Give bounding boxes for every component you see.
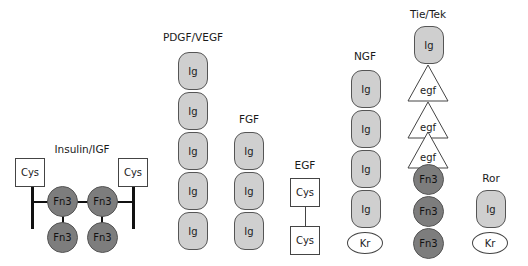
- egf-cys-2: Cys: [290, 226, 320, 255]
- pdgf-ig-5: Ig: [178, 212, 208, 250]
- insulin-cys-right: Cys: [118, 158, 148, 187]
- tie-egf-1: egf: [407, 64, 449, 102]
- tie-fn3-3: Fn3: [413, 228, 444, 259]
- pdgf-ig-3: Ig: [178, 132, 208, 170]
- insulin-fn3-2: Fn3: [87, 186, 118, 217]
- ror-label: Ror: [482, 172, 500, 184]
- pdgf-ig-1: Ig: [178, 52, 208, 90]
- tie-egf-1-label: egf: [407, 85, 449, 96]
- pdgf-ig-2: Ig: [178, 92, 208, 130]
- pdgf-ig-4: Ig: [178, 172, 208, 210]
- tie-ig-1: Ig: [414, 26, 444, 64]
- insulin-fn3-3: Fn3: [47, 222, 78, 253]
- ror-ig-1: Ig: [476, 190, 506, 228]
- insulin-igf-label: Insulin/IGF: [54, 143, 109, 155]
- egf-link: [305, 207, 306, 227]
- tie-tek-label: Tie/Tek: [410, 8, 446, 20]
- insulin-left-stalk: [31, 187, 34, 229]
- fgf-ig-3: Ig: [234, 212, 264, 250]
- insulin-fn3-1: Fn3: [47, 186, 78, 217]
- tie-fn3-2: Fn3: [413, 196, 444, 227]
- ngf-ig-2: Ig: [351, 110, 381, 148]
- triangle-shape: [407, 64, 449, 102]
- insulin-right-stalk: [132, 187, 135, 229]
- fgf-ig-1: Ig: [234, 132, 264, 170]
- egf-label: EGF: [295, 159, 316, 171]
- ngf-label: NGF: [354, 50, 376, 62]
- ngf-ig-3: Ig: [351, 150, 381, 188]
- egf-cys-1: Cys: [290, 178, 320, 207]
- ngf-ig-4: Ig: [351, 190, 381, 228]
- ngf-kr: Kr: [347, 232, 383, 254]
- ror-kr: Kr: [472, 232, 508, 254]
- insulin-cys-left: Cys: [15, 158, 45, 187]
- fgf-ig-2: Ig: [234, 172, 264, 210]
- tie-egf-3-label: egf: [407, 152, 449, 163]
- pdgf-vegf-label: PDGF/VEGF: [163, 31, 223, 43]
- tie-fn3-1: Fn3: [413, 164, 444, 195]
- insulin-fn3-4: Fn3: [87, 222, 118, 253]
- fgf-label: FGF: [239, 113, 259, 125]
- ngf-ig-1: Ig: [351, 70, 381, 108]
